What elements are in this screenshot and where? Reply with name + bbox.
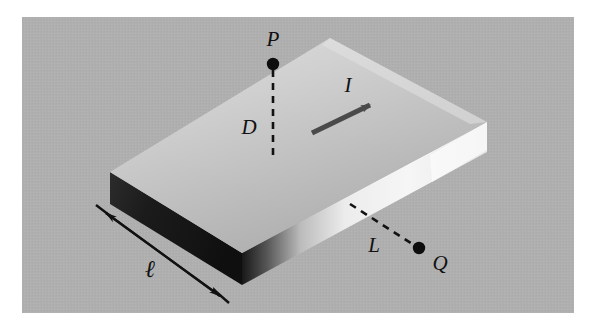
field-point-p-dot bbox=[267, 58, 279, 70]
label-length-ell: ℓ bbox=[145, 256, 155, 282]
figure-canvas: P D I L Q ℓ bbox=[0, 0, 596, 320]
field-point-q-dot bbox=[413, 242, 425, 254]
label-distance-d: D bbox=[240, 115, 256, 139]
label-point-p: P bbox=[266, 27, 280, 51]
label-current-i: I bbox=[344, 73, 353, 97]
physics-figure: P D I L Q ℓ bbox=[0, 0, 596, 320]
label-point-q: Q bbox=[432, 251, 447, 275]
label-distance-l: L bbox=[367, 233, 380, 257]
